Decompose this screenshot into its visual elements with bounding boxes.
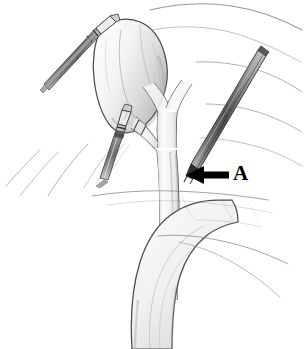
illustration-canvas bbox=[0, 0, 304, 349]
operative-illustration-figure: A bbox=[0, 0, 304, 349]
annotation-label-a: A bbox=[233, 163, 248, 184]
